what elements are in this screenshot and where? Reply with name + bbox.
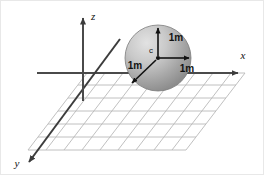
y-axis-label: y [14, 157, 20, 169]
dimension-label-up: 1m [169, 32, 184, 43]
sphere-center-point [156, 56, 160, 60]
x-axis-label: x [240, 49, 246, 61]
sphere-center-label: c [149, 46, 153, 55]
figure-canvas: c 1m 1m 1m z x y [0, 0, 264, 175]
grid-column [46, 73, 105, 150]
y-axis-line [29, 39, 120, 162]
grid-column [28, 73, 87, 150]
z-axis-label: z [90, 10, 96, 22]
ground-grid [28, 73, 245, 150]
coordinate-system-diagram: c 1m 1m 1m z x y [1, 1, 264, 175]
dimension-label-down-left: 1m [128, 60, 143, 71]
dimension-label-right: 1m [180, 63, 195, 74]
